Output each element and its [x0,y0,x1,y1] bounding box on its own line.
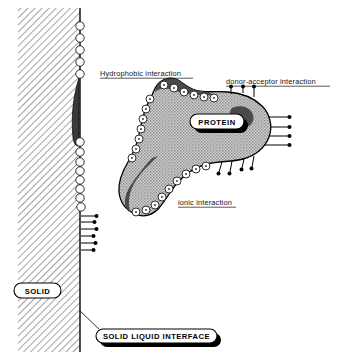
label-hydrophobic-interaction: Hydrophobic interaction [100,69,193,78]
protein-site [210,94,218,102]
ionic-interaction-text: ionic interaction [178,198,232,207]
wall-pin-head [93,220,97,224]
protein-pin-line [230,161,232,172]
protein-pill-label: PROTEIN [198,118,235,127]
solid-pill: SOLID [14,283,61,298]
protein-pin-head [240,168,244,172]
protein-pin-line [219,162,222,172]
protein-site [135,135,143,143]
protein-site [142,105,150,113]
wall-pin-head [95,227,99,231]
protein-site [200,93,208,101]
solid-pill-label: SOLID [25,287,51,296]
protein-pin-head [288,143,292,147]
figure-canvas: PROTEIN SOLID SOLID LIQUID INTERFACE Hyd… [0,0,338,360]
protein-pin-head [288,134,292,138]
protein-site [142,206,150,214]
label-ionic-interaction: ionic interaction [178,198,236,207]
protein-site [137,125,145,133]
wall-pin-head [92,248,96,252]
label-donor-acceptor-interaction: donor-acceptor interaction [226,77,330,86]
protein-pin-head [288,115,292,119]
protein-site [202,162,210,170]
protein-site [158,193,166,201]
protein-site [180,88,188,96]
wall-site-circle [77,203,85,211]
wall-site-circle [76,22,84,30]
protein-site [128,154,136,162]
wall-site-circle [76,148,84,156]
solid-hatch-fill [18,8,80,352]
wall-site-circle [76,70,84,78]
protein-site [160,81,168,89]
wall-pin-head [92,234,96,238]
wall-donor-acceptor-pins [81,214,99,252]
wall-site-circle [76,176,84,184]
protein-site [165,185,173,193]
wall-pin-head [95,214,99,218]
protein-pin-line [242,159,244,168]
protein-pin-head [288,125,292,129]
protein-site [192,165,200,173]
donor-acceptor-interaction-text: donor-acceptor interaction [226,77,316,86]
interface-leader-line [80,311,99,329]
protein-interface-figure: PROTEIN SOLID SOLID LIQUID INTERFACE Hyd… [0,0,338,360]
wall-site-circle [76,58,84,66]
protein-site [132,208,140,216]
solid-phase-block [18,8,80,352]
wall-site-circle [76,34,84,42]
protein-pill: PROTEIN [190,114,248,133]
protein-site [132,145,140,153]
wall-site-circle [76,185,84,193]
wall-pin-head [94,241,98,245]
solid-liquid-interface-callout: SOLID LIQUID INTERFACE [80,311,221,347]
protein-pin-head [250,167,254,171]
protein-site [146,95,154,103]
wall-site-circle [76,46,84,54]
protein-site [151,201,159,209]
wall-lower-site-circles [76,138,85,211]
protein-site [139,115,147,123]
protein-site [170,84,178,92]
protein-site [173,177,181,185]
protein-pin-line [252,156,254,167]
wall-site-circle [76,167,84,175]
protein-pin-head [217,172,221,176]
protein-site [190,91,198,99]
wall-site-circle [76,158,84,166]
wall-site-circle [76,138,84,146]
protein-pin-head [228,172,232,176]
wall-site-circle [76,194,84,202]
interface-pill-label: SOLID LIQUID INTERFACE [103,332,210,341]
hydrophobic-interaction-text: Hydrophobic interaction [100,69,181,78]
protein-site [182,170,190,178]
